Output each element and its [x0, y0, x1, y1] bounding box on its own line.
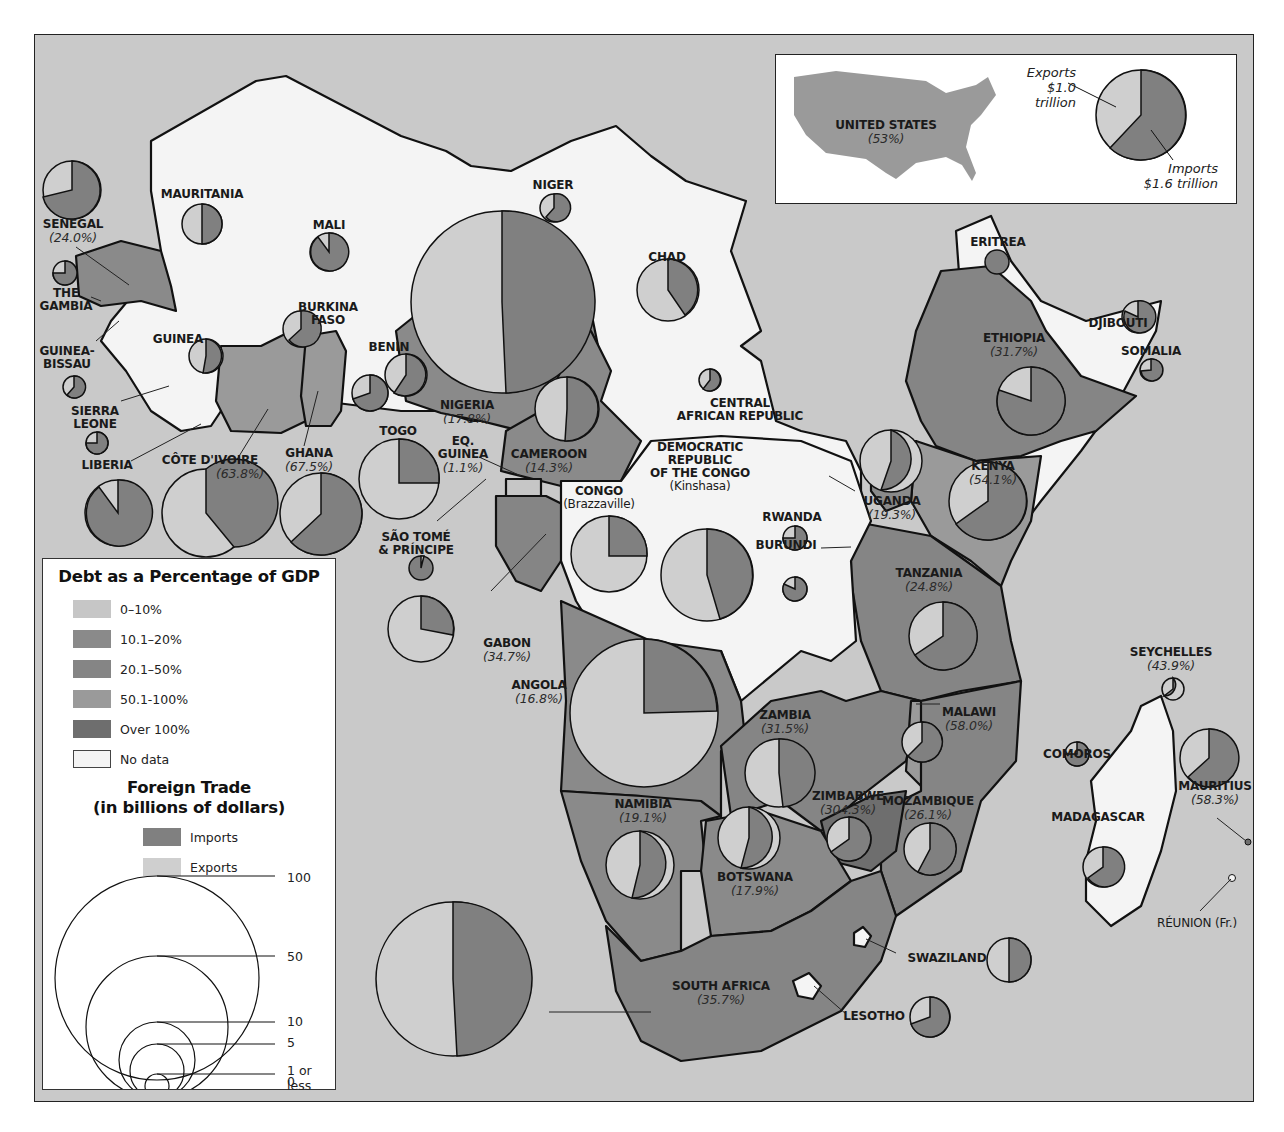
us-exports-label: Exports$1.0 trillion — [1004, 65, 1076, 110]
label-lesotho: LESOTHO — [843, 1010, 905, 1023]
label-congo-brazzaville: CONGO(Brazzaville) — [563, 485, 635, 511]
label-sao-tome-principe: SÃO TOMÉ& PRÍNCIPE — [378, 531, 453, 557]
label-burundi: BURUNDI — [756, 539, 817, 552]
legend-item-no-data: No data — [73, 749, 169, 769]
label-chad: CHAD — [648, 251, 685, 264]
label-eq-guinea: EQ.GUINEA(1.1%) — [438, 435, 488, 474]
label-guinea-bissau: GUINEA-BISSAU — [39, 345, 94, 371]
label-cameroon: CAMEROON(14.3%) — [511, 448, 587, 474]
label-mauritius: MAURITIUS(58.3%) — [1178, 780, 1252, 806]
label-rwanda: RWANDA — [762, 511, 821, 524]
label-gabon: GABON(34.7%) — [483, 637, 531, 663]
label-cote-divoire: CÔTE D'IVOIRE(63.8%) — [156, 454, 264, 480]
us-inset: UNITED STATES(53%) Exports$1.0 trillion … — [775, 54, 1237, 204]
label-central-african-republic: CENTRALAFRICAN REPUBLIC — [677, 397, 803, 423]
label-uganda: UGANDA(19.3%) — [864, 495, 921, 521]
scale-100: 100 — [287, 870, 311, 885]
legend-item-0-10: 0–10% — [73, 599, 162, 619]
label-drc: DEMOCRATICREPUBLICOF THE CONGO(Kinshasa) — [650, 441, 750, 493]
scale-0: 0 — [287, 1074, 295, 1089]
label-reunion: RÉUNION (Fr.) — [1157, 917, 1237, 930]
label-sierra-leone: SIERRALEONE — [71, 405, 119, 431]
label-ghana: GHANA(67.5%) — [285, 447, 333, 473]
label-mali: MALI — [313, 219, 346, 232]
label-somalia: SOMALIA — [1121, 345, 1181, 358]
label-guinea: GUINEA — [153, 333, 203, 346]
label-mozambique: MOZAMBIQUE(26.1%) — [882, 795, 974, 821]
label-djibouti: DJIBOUTI — [1088, 317, 1147, 330]
label-kenya: KENYA(54.1%) — [969, 460, 1017, 486]
label-burkina-faso: BURKINAFASO — [298, 301, 358, 327]
legend-imports: Imports — [143, 827, 238, 847]
label-swaziland: SWAZILAND — [908, 952, 987, 965]
legend-item-10-20: 10.1–20% — [73, 629, 182, 649]
legend-item-50-100: 50.1-100% — [73, 689, 188, 709]
legend-panel: Debt as a Percentage of GDP 0–10% 10.1–2… — [42, 558, 336, 1090]
legend-item-over-100: Over 100% — [73, 719, 190, 739]
label-eritrea: ERITREA — [970, 236, 1025, 249]
label-mauritania: MAURITANIA — [161, 188, 244, 201]
label-seychelles: SEYCHELLES(43.9%) — [1130, 646, 1212, 672]
label-senegal: SENEGAL(24.0%) — [43, 218, 103, 244]
legend-debt-title: Debt as a Percentage of GDP — [43, 567, 335, 586]
label-togo: TOGO — [379, 425, 417, 438]
label-south-africa: SOUTH AFRICA(35.7%) — [672, 980, 770, 1006]
label-benin: BENIN — [369, 341, 410, 354]
label-liberia: LIBERIA — [81, 459, 132, 472]
label-namibia: NAMIBIA(19.1%) — [614, 798, 671, 824]
label-botswana: BOTSWANA(17.9%) — [717, 871, 793, 897]
us-label: UNITED STATES(53%) — [835, 119, 936, 145]
label-comoros: COMOROS — [1043, 748, 1111, 761]
label-tanzania: TANZANIA(24.8%) — [896, 567, 963, 593]
label-angola: ANGOLA(16.8%) — [511, 679, 566, 705]
label-nigeria: NIGERIA(17.8%) — [440, 399, 494, 425]
label-niger: NIGER — [533, 179, 574, 192]
legend-size-scale — [43, 869, 335, 1089]
label-zimbabwe: ZIMBABWE(304.3%) — [812, 790, 884, 816]
us-imports-label: Imports$1.6 trillion — [1122, 161, 1218, 191]
legend-trade-title: Foreign Trade — [43, 778, 335, 797]
label-ethiopia: ETHIOPIA(31.7%) — [983, 332, 1045, 358]
scale-50: 50 — [287, 949, 303, 964]
scale-5: 5 — [287, 1035, 295, 1050]
label-zambia: ZAMBIA(31.5%) — [759, 709, 811, 735]
label-the-gambia: THEGAMBIA — [40, 287, 93, 313]
label-madagascar: MADAGASCAR — [1051, 811, 1145, 824]
legend-item-20-50: 20.1–50% — [73, 659, 182, 679]
legend-trade-subtitle: (in billions of dollars) — [43, 798, 335, 817]
scale-10: 10 — [287, 1014, 303, 1029]
label-malawi: MALAWI(58.0%) — [942, 706, 996, 732]
